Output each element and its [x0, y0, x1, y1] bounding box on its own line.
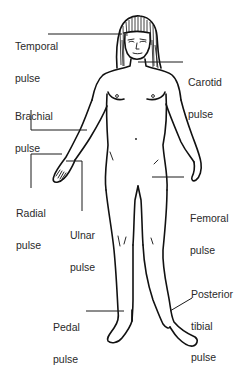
label-line: Radial	[16, 208, 46, 219]
label-line: pulse	[191, 352, 233, 363]
radial-pulse-label: Radial pulse	[16, 187, 46, 271]
label-line: Carotid	[188, 77, 222, 88]
label-line: Brachial	[15, 111, 53, 122]
ulnar-pulse-label: Ulnar pulse	[70, 209, 95, 293]
label-line: pulse	[16, 240, 46, 251]
label-line: pulse	[15, 73, 58, 84]
hair	[117, 16, 161, 68]
label-line: Temporal	[15, 41, 58, 52]
label-line: pulse	[15, 143, 53, 154]
left-arm	[53, 100, 107, 182]
label-line: pulse	[53, 354, 80, 365]
femoral-pulse-label: Femoral pulse	[190, 192, 229, 276]
label-line: Pedal	[53, 322, 80, 333]
posterior-tibial-leader	[170, 298, 192, 311]
ulnar-leader	[66, 161, 82, 211]
torso	[92, 59, 181, 245]
legs	[106, 190, 197, 346]
label-line: pulse	[188, 109, 222, 120]
carotid-pulse-label: Carotid pulse	[188, 56, 222, 140]
brachial-pulse-label: Brachial pulse	[15, 90, 53, 174]
label-line: tibial	[191, 321, 233, 332]
pedal-pulse-label: Pedal pulse	[53, 301, 80, 369]
label-line: Femoral	[190, 213, 229, 224]
label-line: pulse	[70, 262, 95, 273]
face	[125, 34, 151, 59]
label-line: Posterior	[191, 289, 233, 300]
posterior-tibial-pulse-label: Posterior tibial pulse	[191, 268, 233, 369]
label-line: Ulnar	[70, 230, 95, 241]
label-line: pulse	[190, 245, 229, 256]
